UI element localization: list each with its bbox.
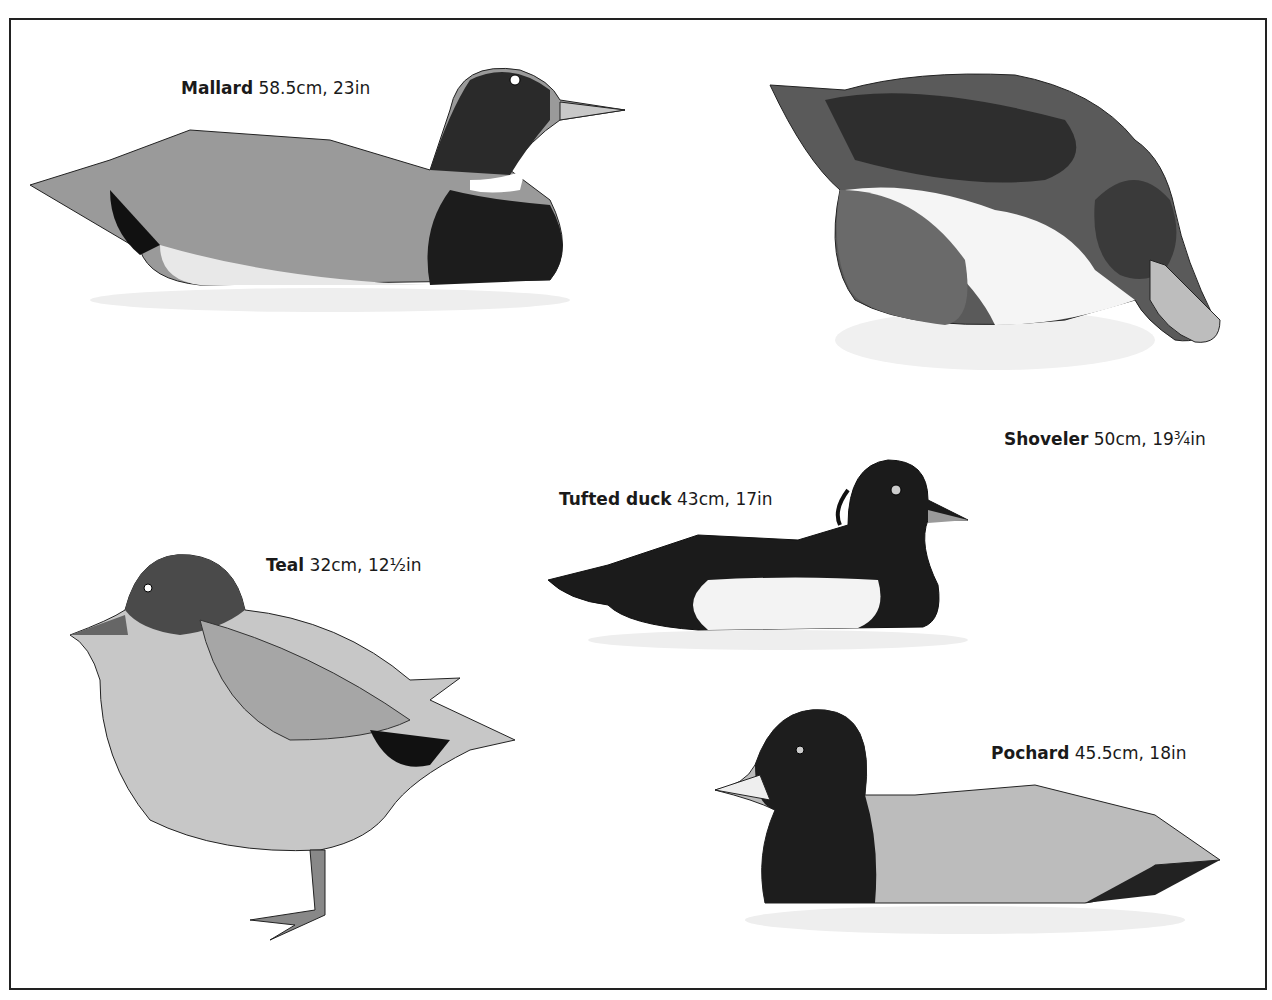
shoveler-illustration bbox=[765, 60, 1225, 380]
bird-name: Pochard bbox=[991, 743, 1069, 763]
bird-name: Tufted duck bbox=[559, 489, 672, 509]
teal-label: Teal 32cm, 12½in bbox=[266, 555, 422, 575]
teal-illustration bbox=[70, 550, 520, 950]
bird-measure: 58.5cm, 23in bbox=[258, 78, 370, 98]
bird-name: Shoveler bbox=[1004, 429, 1088, 449]
mallard-label: Mallard 58.5cm, 23in bbox=[181, 78, 370, 98]
bird-measure: 43cm, 17in bbox=[677, 489, 772, 509]
shoveler-label: Shoveler 50cm, 19¾in bbox=[1004, 429, 1206, 449]
bird-measure: 32cm, 12½in bbox=[310, 555, 422, 575]
tufted-duck-label: Tufted duck 43cm, 17in bbox=[559, 489, 773, 509]
bird-measure: 50cm, 19¾in bbox=[1094, 429, 1206, 449]
bird-name: Mallard bbox=[181, 78, 253, 98]
pochard-label: Pochard 45.5cm, 18in bbox=[991, 743, 1186, 763]
bird-measure: 45.5cm, 18in bbox=[1075, 743, 1187, 763]
tufted-duck-illustration bbox=[548, 455, 978, 670]
bird-name: Teal bbox=[266, 555, 304, 575]
